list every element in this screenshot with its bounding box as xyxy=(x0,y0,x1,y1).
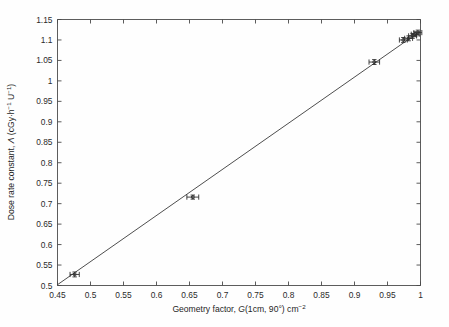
y-tick-label: 0.9 xyxy=(41,117,53,127)
x-tick-label: 0.7 xyxy=(217,290,229,300)
y-tick-label: 1.15 xyxy=(36,15,53,25)
x-tick-label: 0.8 xyxy=(283,290,295,300)
svg-text:Geometry factor, G(1cm, 90°) c: Geometry factor, G(1cm, 90°) cm−2 xyxy=(172,303,306,314)
x-tick-label: 0.95 xyxy=(379,290,396,300)
dose-rate-constant-scatter-chart: 0.450.50.550.60.650.70.750.80.850.90.951… xyxy=(0,0,449,327)
figure-container: 0.450.50.550.60.650.70.750.80.850.90.951… xyxy=(0,0,449,327)
x-tick-label: 0.45 xyxy=(49,290,66,300)
y-tick-label: 0.95 xyxy=(36,96,53,106)
y-tick-label: 1.1 xyxy=(41,35,53,45)
y-tick-label: 1 xyxy=(48,76,53,86)
x-axis-title: Geometry factor, G(1cm, 90°) cm−2 xyxy=(172,303,306,314)
y-tick-label: 0.65 xyxy=(36,219,53,229)
y-tick-label: 0.6 xyxy=(41,240,53,250)
x-tick-label: 0.55 xyxy=(115,290,132,300)
y-tick-label: 0.5 xyxy=(41,281,53,291)
x-tick-label: 0.85 xyxy=(313,290,330,300)
x-tick-label: 0.65 xyxy=(181,290,198,300)
x-tick-label: 0.5 xyxy=(85,290,97,300)
y-tick-label: 0.85 xyxy=(36,137,53,147)
x-tick-label: 0.75 xyxy=(247,290,264,300)
y-tick-label: 0.8 xyxy=(41,158,53,168)
x-tick-label: 1 xyxy=(418,290,423,300)
x-tick-label: 0.9 xyxy=(349,290,361,300)
y-tick-label: 0.55 xyxy=(36,260,53,270)
x-tick-label: 0.6 xyxy=(151,290,163,300)
y-tick-label: 0.7 xyxy=(41,199,53,209)
y-tick-label: 1.05 xyxy=(36,55,53,65)
y-tick-label: 0.75 xyxy=(36,178,53,188)
